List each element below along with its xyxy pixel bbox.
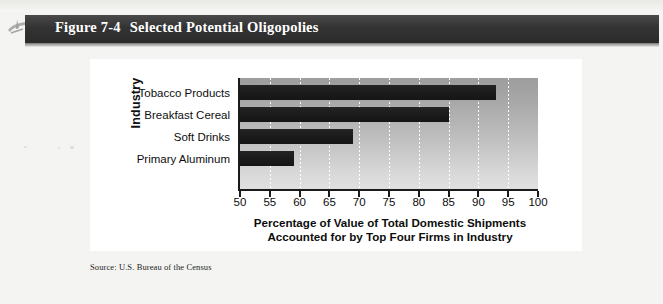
bar [240, 151, 294, 166]
bar-row [240, 82, 538, 104]
figure-header-band: Figure 7-4Selected Potential Oligopolies [25, 15, 659, 43]
figure-title-text: Selected Potential Oligopolies [130, 19, 319, 35]
x-axis-tick-label: 70 [353, 196, 366, 208]
category-label: Tobacco Products [115, 82, 235, 104]
x-axis-tick-label: 60 [293, 196, 306, 208]
x-axis-tick-label: 55 [263, 196, 276, 208]
bar-row [240, 104, 538, 126]
chart-plot-area [238, 78, 538, 191]
x-axis-tick-label: 85 [442, 196, 455, 208]
x-axis-tick-label: 95 [502, 196, 515, 208]
x-axis-tick-label: 100 [528, 196, 547, 208]
x-axis-tick-label-group: 50556065707580859095100 [238, 196, 538, 212]
x-axis-title-line2: Accounted for by Top Four Firms in Indus… [225, 230, 555, 244]
x-axis-tick-label: 50 [234, 196, 247, 208]
figure-page: Figure 7-4Selected Potential Oligopolies… [0, 0, 663, 304]
bar [240, 129, 353, 144]
x-axis-tick-label: 65 [323, 196, 336, 208]
source-note: Source: U.S. Bureau of the Census [90, 262, 212, 272]
category-label-list: Tobacco Products Breakfast Cereal Soft D… [115, 82, 235, 170]
bar-row [240, 126, 538, 148]
bar [240, 107, 449, 122]
bar-group [240, 78, 538, 189]
x-axis-tick-label: 80 [412, 196, 425, 208]
category-label: Primary Aluminum [115, 148, 235, 170]
page-top-edge [0, 0, 663, 12]
x-axis-tick-label: 90 [472, 196, 485, 208]
x-axis-tick-label: 75 [383, 196, 396, 208]
x-axis-title-line1: Percentage of Value of Total Domestic Sh… [225, 216, 555, 230]
page-speckle [58, 147, 60, 149]
category-label: Soft Drinks [115, 126, 235, 148]
x-axis-title: Percentage of Value of Total Domestic Sh… [225, 216, 555, 243]
gridline [538, 78, 539, 189]
page-speckle [24, 146, 27, 148]
bar-row [240, 148, 538, 170]
figure-header-title: Figure 7-4Selected Potential Oligopolies [55, 19, 319, 36]
page-speckle [70, 146, 74, 149]
figure-number: Figure 7-4 [55, 19, 121, 35]
category-label: Breakfast Cereal [115, 104, 235, 126]
book-ornament-icon [5, 16, 31, 40]
bar [240, 85, 496, 100]
